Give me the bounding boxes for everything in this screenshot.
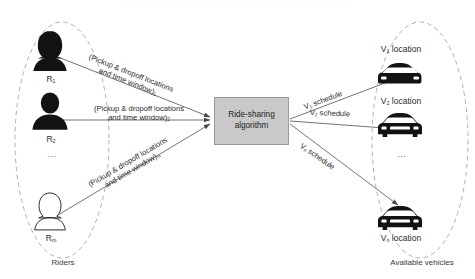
diagram-canvas: Ride-sharing algorithm R1 R2 Rm ⋮ Riders… [0,0,475,279]
algorithm-label-line2: algorithm [235,121,269,130]
node-label-vn: Vn location [375,233,427,243]
rider-outline-icon [35,193,66,230]
node-label-r2: R2 [38,134,64,144]
male-rider-icon [32,92,67,129]
riders-group-label: Riders [27,258,99,267]
algorithm-label-line1: Ride-sharing [228,110,274,119]
vehicles-ellipsis: ⋮ [399,152,404,161]
female-rider-icon [33,31,66,71]
edge-label-input-2: (Pickup & dropoff locations and time win… [74,105,204,123]
vehicles-group-label: Available vehicles [376,258,468,267]
sedan-car-icon [378,113,422,137]
node-label-r1: R1 [38,74,64,84]
ride-sharing-algorithm-box[interactable]: Ride-sharing algorithm [214,97,289,145]
riders-ellipsis: ⋮ [49,152,54,161]
node-label-rm: Rm [38,233,64,243]
node-label-v1: V1 location [375,44,427,54]
edge-label-output-v2: V2 schedule [310,109,351,119]
sports-car-icon [378,63,421,84]
sedan-car-icon-n [378,206,422,230]
edge-algorithm-to-vn [290,124,398,205]
node-label-v2: V2 location [375,96,427,106]
